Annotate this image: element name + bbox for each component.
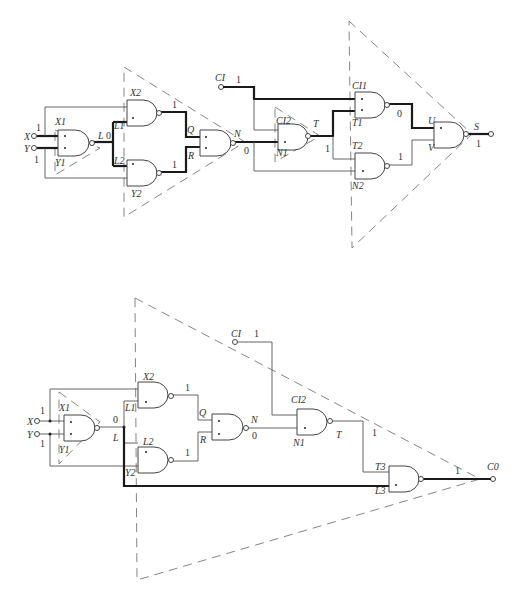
nand-gate-Q-bottom [138, 382, 174, 408]
label-t1: T1 [352, 117, 363, 128]
label-t: T [313, 118, 320, 129]
nand-gate-L-bottom [64, 415, 100, 441]
output-co-terminal [491, 477, 496, 482]
value-q: 1 [172, 99, 177, 110]
nand-gate-N [200, 130, 236, 156]
label-l2: L2 [113, 155, 125, 166]
label-ci-bottom: CI [231, 328, 242, 339]
label-ci2-bottom: CI2 [291, 394, 306, 405]
label-l-bottom: L [112, 432, 119, 443]
label-ci2: CI2 [276, 115, 291, 126]
label-l2-bottom: L2 [142, 436, 154, 447]
input-y-terminal-bottom [35, 432, 40, 437]
label-y-bottom: Y [27, 429, 34, 440]
label-ci1: CI1 [352, 80, 367, 91]
input-y-terminal [32, 146, 37, 151]
label-q: Q [187, 124, 195, 135]
label-r: R [187, 150, 194, 161]
label-x2: X2 [129, 87, 141, 98]
label-n: N [233, 128, 242, 139]
label-n2: N2 [351, 180, 364, 191]
value-l: 0 [106, 130, 111, 141]
output-s-terminal [489, 132, 494, 137]
value-co: 1 [455, 465, 460, 476]
nand-gate-R-bottom [138, 447, 174, 473]
label-x-bottom: X [26, 416, 34, 427]
label-y1-bottom: Y1 [59, 444, 70, 455]
label-y1: Y1 [55, 157, 66, 168]
label-t-bottom: T [336, 429, 343, 440]
input-x-terminal-bottom [35, 419, 40, 424]
label-x2-bottom: X2 [142, 371, 154, 382]
label-y2-bottom: Y2 [125, 467, 136, 478]
label-y2: Y2 [131, 188, 142, 199]
value-t-bottom: 1 [372, 427, 377, 438]
input-ci-terminal [219, 85, 224, 90]
cone-CO [135, 298, 480, 580]
label-n1: N1 [275, 147, 288, 158]
bottom-circuit: X Y 1 1 X1 Y1 0 L X2 L1 L2 Y2 1 1 Q R N … [26, 298, 499, 580]
label-s: S [474, 121, 479, 132]
value-r: 1 [172, 159, 177, 170]
label-co: C0 [487, 461, 499, 472]
top-circuit: X Y 1 1 X1 Y1 L 0 X2 L1 L2 Y2 1 1 Q R N … [23, 21, 494, 248]
input-ci-terminal-bottom [233, 340, 238, 345]
value-l-bottom: 0 [113, 414, 118, 425]
label-x1: X1 [54, 116, 66, 127]
nand-gate-R [127, 160, 162, 186]
nand-gate-N-bottom [212, 414, 249, 440]
value-ci-bottom: 1 [254, 328, 259, 339]
label-t3: T3 [375, 461, 386, 472]
label-x1-bottom: X1 [58, 402, 70, 413]
nand-gate-Q [127, 100, 162, 126]
nand-gate-CO [389, 466, 424, 492]
value-r-bottom: 1 [185, 447, 190, 458]
value-u: 0 [397, 108, 402, 119]
label-l: L [97, 130, 104, 141]
value-x-bottom: 1 [40, 405, 45, 416]
circuit-diagram: X Y 1 1 X1 Y1 L 0 X2 L1 L2 Y2 1 1 Q R N … [0, 0, 525, 613]
value-n-bottom: 0 [252, 430, 257, 441]
value-y-bottom: 1 [40, 438, 45, 449]
nand-gate-T-bottom [297, 409, 333, 435]
value-v: 1 [398, 151, 403, 162]
input-x-terminal [32, 134, 37, 139]
label-q-bottom: Q [199, 407, 207, 418]
nand-gate-L [58, 130, 95, 156]
label-r-bottom: R [199, 434, 206, 445]
value-x: 1 [36, 122, 41, 133]
value-ci: 1 [236, 74, 241, 85]
value-q-bottom: 1 [185, 382, 190, 393]
label-t2: T2 [352, 140, 363, 151]
label-u: U [428, 115, 436, 126]
label-n1-bottom: N1 [292, 437, 305, 448]
value-n: 0 [244, 145, 249, 156]
nand-gate-V [355, 153, 390, 179]
label-l1: L1 [113, 120, 125, 131]
label-ci: CI [215, 72, 226, 83]
label-x: X [23, 131, 31, 142]
label-l1-bottom: L1 [124, 402, 136, 413]
label-y: Y [24, 143, 31, 154]
value-t: 1 [325, 143, 330, 154]
value-y: 1 [34, 154, 39, 165]
value-s: 1 [476, 138, 481, 149]
label-n-bottom: N [250, 414, 259, 425]
nand-gate-U [355, 92, 390, 118]
label-l3: L3 [374, 485, 386, 496]
